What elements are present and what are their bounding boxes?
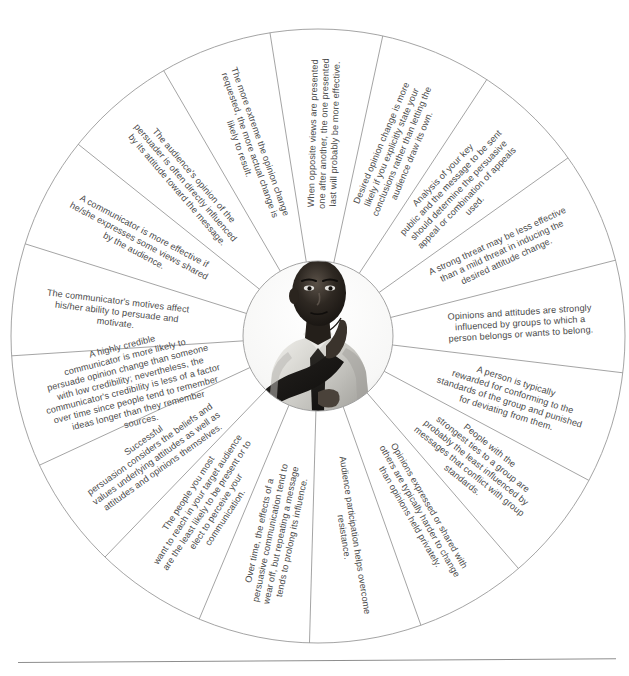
persuasion-wheel-figure: When opposite views are presentedone aft…	[0, 0, 629, 676]
wheel-diagram: When opposite views are presentedone aft…	[0, 0, 629, 676]
segment-label-opposite-views: When opposite views are presentedone aft…	[306, 58, 342, 210]
